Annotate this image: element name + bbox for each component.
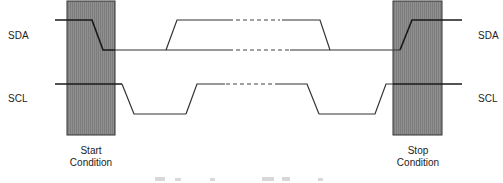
sda-data-pulse-rise — [166, 20, 233, 50]
sda-data-pulse-fall — [282, 20, 330, 50]
start-condition-label-line2: Condition — [70, 157, 112, 168]
start-condition-label-line1: Start — [80, 145, 101, 156]
stop-condition-label-line2: Condition — [397, 157, 439, 168]
cutoff-caption — [155, 177, 323, 181]
scl-fall — [122, 84, 186, 114]
sda-label-right: SDA — [478, 30, 499, 41]
start-condition-box — [67, 1, 115, 135]
scl-label-left: SCL — [8, 93, 28, 104]
sda-label-left: SDA — [8, 30, 29, 41]
i2c-timing-diagram: SDA SCL SDA SCL Start Condition Stop Con… — [0, 0, 503, 183]
scl-label-right: SCL — [478, 93, 498, 104]
stop-condition-label-line1: Stop — [408, 145, 429, 156]
stop-condition-box — [393, 1, 442, 135]
scl-low-2 — [319, 84, 393, 114]
scl-rise — [186, 84, 225, 114]
scl-high-end — [276, 84, 319, 114]
